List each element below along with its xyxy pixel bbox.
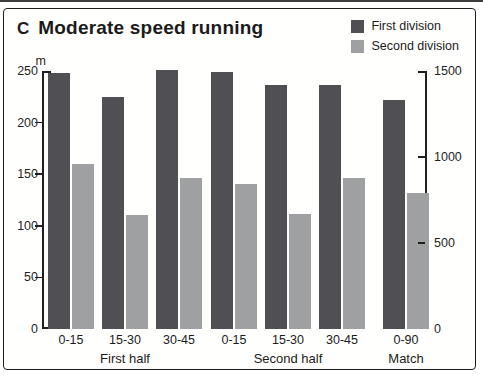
second-division-bar-30-45	[343, 178, 365, 329]
first-division-bar-0-90	[383, 100, 405, 329]
bar-group-first-half: 0-1515-3030-45First half	[48, 71, 202, 329]
second-division-bar-15-30	[289, 214, 311, 329]
right-axis-labels: 050010001500	[429, 71, 471, 329]
interval-label: 0-15	[211, 333, 257, 347]
axis-tick-label-right: 500	[429, 235, 471, 251]
interval-label: 15-30	[265, 333, 311, 347]
interval-labels: 0-1515-3030-45	[48, 333, 202, 347]
first-division-bar-0-15	[211, 72, 233, 329]
axis-tick-mark-left	[35, 173, 42, 175]
axis-tick-mark-right	[418, 156, 425, 158]
axis-tick-label-left: 250	[8, 63, 42, 79]
axis-tick-label-right: 1500	[429, 63, 471, 79]
first-division-bar-15-30	[265, 85, 287, 329]
legend-item-1: First division	[351, 19, 459, 33]
interval-label: 15-30	[102, 333, 148, 347]
interval-labels: 0-1515-3030-45	[211, 333, 365, 347]
legend-swatch-icon	[351, 40, 364, 53]
legend-item-2: Second division	[351, 39, 459, 53]
first-division-bar-30-45	[319, 85, 341, 329]
second-division-bar-0-90	[407, 193, 429, 329]
group-label: First half	[48, 351, 202, 366]
legend: First divisionSecond division	[351, 19, 459, 53]
chart: m 050100150200250 0-1515-3030-45First ha…	[8, 61, 471, 329]
bar-group-match: 0-90Match	[383, 71, 429, 329]
legend-label: First division	[371, 19, 440, 33]
bar-pair-30-45	[319, 85, 365, 329]
axis-tick-label-right: 1000	[429, 149, 471, 165]
bar-pair-0-15	[48, 73, 94, 329]
interval-labels: 0-90	[383, 333, 429, 347]
bar-pair-0-15	[211, 72, 257, 329]
second-division-bar-0-15	[235, 184, 257, 330]
axis-tick-label-right: 0	[429, 321, 471, 337]
interval-label: 30-45	[156, 333, 202, 347]
bar-pair-30-45	[156, 70, 202, 329]
figure-title: Moderate speed running	[38, 17, 263, 39]
second-division-bar-15-30	[126, 215, 148, 329]
group-label: Match	[383, 351, 429, 366]
panel-letter: C	[17, 19, 29, 39]
bar-pair-15-30	[265, 85, 311, 329]
bars	[211, 71, 365, 329]
figure-panel: C Moderate speed running First divisionS…	[3, 8, 476, 370]
bars	[383, 71, 429, 329]
bar-pair-15-30	[102, 97, 148, 329]
bar-pair-0-90	[383, 100, 429, 329]
interval-label: 0-90	[383, 333, 429, 347]
interval-label: 0-15	[48, 333, 94, 347]
bar-groups-row: 0-1515-3030-45First half0-1515-3030-45Se…	[48, 71, 417, 329]
bars	[48, 71, 202, 329]
first-division-bar-0-15	[48, 73, 70, 329]
left-axis-line	[42, 71, 44, 329]
bar-group-second-half: 0-1515-3030-45Second half	[211, 71, 365, 329]
legend-label: Second division	[371, 39, 459, 53]
axis-tick-label-left: 0	[8, 321, 42, 337]
left-axis-labels: m 050100150200250	[8, 71, 42, 329]
plot-area: 0-1515-3030-45First half0-1515-3030-45Se…	[42, 71, 427, 329]
axis-tick-mark-left	[35, 225, 42, 227]
axis-tick-mark-right	[418, 242, 425, 244]
legend-swatch-icon	[351, 20, 364, 33]
figure-title-row: C Moderate speed running	[17, 17, 263, 39]
second-division-bar-0-15	[72, 164, 94, 329]
axis-tick-mark-left	[35, 277, 42, 279]
first-division-bar-30-45	[156, 70, 178, 329]
page-top-rule	[0, 0, 483, 2]
group-label: Second half	[211, 351, 365, 366]
first-division-bar-15-30	[102, 97, 124, 329]
axis-tick-mark-left	[35, 122, 42, 124]
interval-label: 30-45	[319, 333, 365, 347]
second-division-bar-30-45	[180, 178, 202, 329]
